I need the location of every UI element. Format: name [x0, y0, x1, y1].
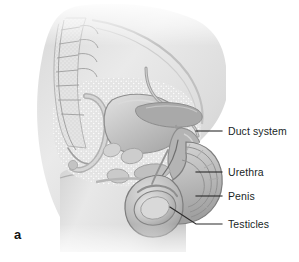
label-duct-system: Duct system	[228, 125, 287, 137]
left-fade	[0, 0, 40, 262]
label-penis: Penis	[228, 190, 255, 202]
anal-canal	[68, 160, 77, 169]
top-fade	[0, 0, 299, 46]
label-testicles: Testicles	[228, 218, 269, 230]
panel-letter-a: a	[14, 228, 21, 241]
label-urethra: Urethra	[228, 166, 264, 178]
figure-panel: Duct system Urethra Penis Testicles a	[0, 0, 299, 262]
